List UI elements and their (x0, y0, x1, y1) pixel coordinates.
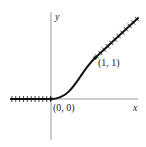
point-one-one (93, 56, 97, 60)
graph: y x (0, 0) (1, 1) (0, 0, 146, 147)
point-origin (49, 97, 53, 101)
point-label-origin: (0, 0) (53, 102, 75, 114)
curve-transition-segment (51, 58, 95, 99)
hatch-marks (12, 17, 139, 102)
curve-right-segment (95, 17, 139, 58)
x-axis-label: x (132, 102, 138, 113)
y-axis-label: y (54, 11, 60, 22)
point-label-one-one: (1, 1) (98, 57, 120, 69)
